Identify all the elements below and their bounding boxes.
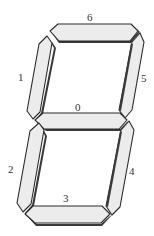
label-3: 3 bbox=[63, 192, 69, 204]
label-6: 6 bbox=[87, 11, 93, 23]
segment-1-upper-left bbox=[27, 36, 56, 121]
label-2: 2 bbox=[8, 163, 14, 175]
label-5: 5 bbox=[141, 72, 147, 84]
segment-6-top bbox=[50, 24, 140, 43]
segment-0-middle bbox=[35, 113, 129, 131]
label-4: 4 bbox=[129, 165, 135, 177]
segment-2-lower-left bbox=[17, 123, 47, 214]
label-0: 0 bbox=[75, 101, 81, 113]
label-1: 1 bbox=[18, 71, 24, 83]
segment-3-bottom bbox=[25, 206, 112, 226]
seven-segment-diagram: 6 1 5 0 2 4 3 bbox=[0, 0, 154, 236]
